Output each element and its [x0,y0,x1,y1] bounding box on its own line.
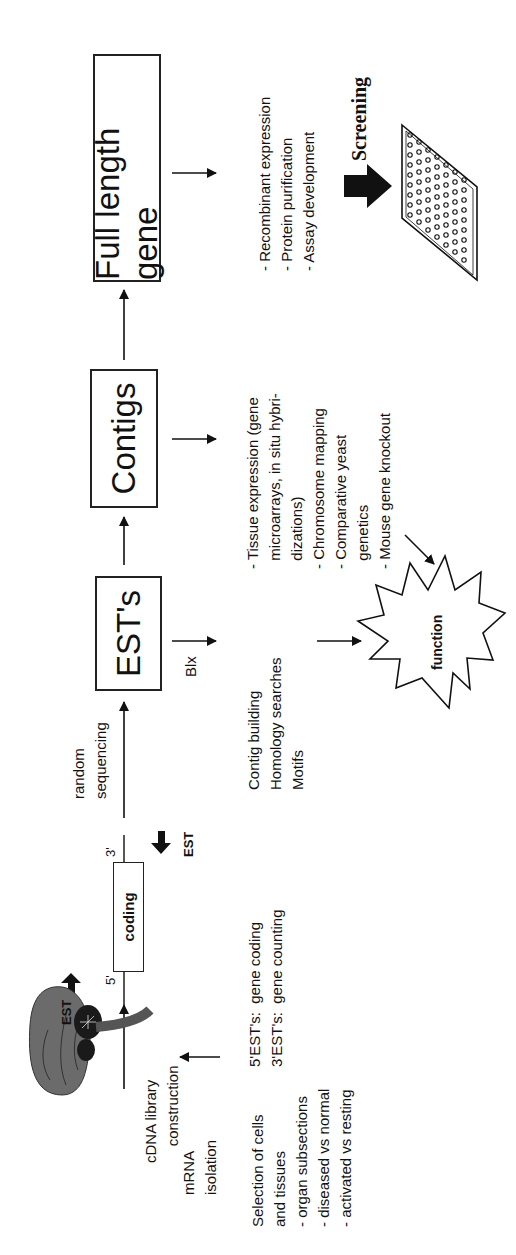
est-right-label: EST [178,832,200,857]
microtiter-plate-icon [402,125,477,280]
screening-label: Screening [348,77,370,161]
coding-label: coding [120,892,137,941]
brain-icon [29,987,150,1095]
function-label: function [426,615,448,670]
random-sequencing-label: random sequencing [68,722,112,799]
coding-box: coding [113,862,144,972]
contigs-box: Contigs [90,369,158,508]
ests-label: EST's [110,590,148,677]
est-arrow-right-icon [151,831,171,854]
contig-analysis-text: - Tissue expression (gene microarrays, i… [242,393,396,569]
diagram-canvas: Full length gene Contigs EST's coding 5'… [0,0,516,1255]
gene-analysis-text: - Recombinant expression - Protein purif… [254,97,320,271]
blx-label: Blx [180,656,202,677]
ests-box: EST's [95,576,162,691]
full-length-gene-box: Full length gene [93,54,161,282]
full-length-gene-label: Full length gene [89,56,165,280]
est-types-text: 5'EST's: gene coding 3'EST's: gene count… [244,910,288,1068]
selection-text: Selection of cells and tissues - organ s… [247,1089,357,1227]
est-left-label: EST [56,1000,78,1025]
arrow-contig-to-function [405,535,434,564]
five-prime-label: 5' [100,975,122,985]
est-analysis-text: Contig building Homology searches Motifs [243,657,309,790]
contigs-label: Contigs [105,383,143,495]
mrna-isolation-label: mRNA isolation [178,1140,222,1195]
screening-arrow-icon [344,164,392,208]
three-prime-label: 3' [100,847,122,857]
